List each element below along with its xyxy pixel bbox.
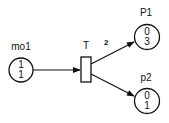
place-p1[interactable]: P1 0 3 [135,7,160,50]
place-p2[interactable]: p2 0 1 [135,72,160,114]
arc-weight-label: 2 [104,38,109,47]
place-label: P1 [140,7,153,18]
place-token-bottom: 3 [144,36,150,47]
place-label: mo1 [11,41,31,52]
transition-t[interactable]: T [81,40,91,82]
arc-t-to-p1 [91,42,134,64]
place-token-bottom: 1 [18,69,24,80]
arc-t-to-p2 [91,74,134,96]
transition-label: T [83,40,89,51]
place-mo1[interactable]: mo1 1 1 [9,41,33,82]
place-token-bottom: 1 [144,100,150,111]
place-label: p2 [140,72,152,83]
petri-net-diagram: 2 mo1 1 1 T P1 0 3 p2 0 1 [0,0,169,123]
